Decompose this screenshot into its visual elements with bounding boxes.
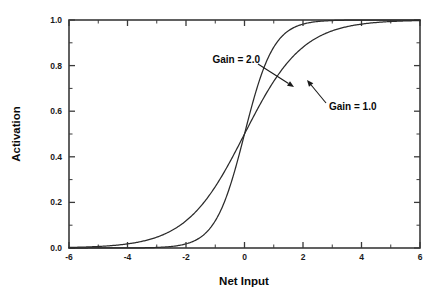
annotation-label: Gain = 1.0 xyxy=(329,101,377,112)
x-tick-label: 2 xyxy=(301,252,306,262)
y-tick-label: 0.4 xyxy=(50,152,62,162)
x-tick-label: -4 xyxy=(124,252,132,262)
x-tick-label: 4 xyxy=(359,252,364,262)
x-tick-label: 0 xyxy=(242,252,247,262)
chart-figure: -6-4-20246 0.00.20.40.60.81.0 Gain = 2.0… xyxy=(0,0,445,296)
y-tick-label: 1.0 xyxy=(50,15,62,25)
y-tick-label: 0.0 xyxy=(50,243,62,253)
activation-function-chart: -6-4-20246 0.00.20.40.60.81.0 Gain = 2.0… xyxy=(0,0,445,296)
y-axis-title: Activation xyxy=(10,106,22,162)
y-tick-label: 0.6 xyxy=(50,106,62,116)
x-tick-label: -2 xyxy=(182,252,190,262)
annotation-label: Gain = 2.0 xyxy=(212,54,260,65)
x-axis-title: Net Input xyxy=(219,275,269,287)
x-tick-label: 6 xyxy=(418,252,423,262)
y-tick-label: 0.8 xyxy=(50,61,62,71)
y-tick-label: 0.2 xyxy=(50,197,62,207)
x-tick-label: -6 xyxy=(65,252,73,262)
